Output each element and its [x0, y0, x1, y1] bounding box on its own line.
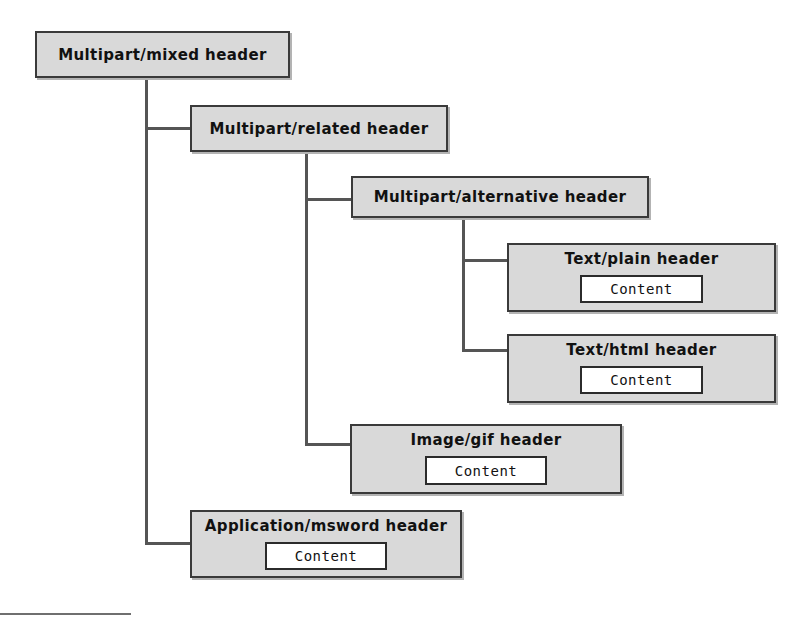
connector-trunk-mixed [145, 78, 148, 545]
node-multipart-mixed[interactable]: Multipart/mixed header [35, 31, 290, 78]
node-text-html[interactable]: Text/html header Content [507, 334, 776, 403]
connector-related-to-alternative [305, 198, 352, 201]
node-label: Text/plain header [565, 250, 719, 268]
node-application-msword[interactable]: Application/msword header Content [190, 510, 462, 578]
connector-trunk-related [305, 152, 308, 446]
node-multipart-alternative[interactable]: Multipart/alternative header [351, 176, 649, 218]
node-image-gif[interactable]: Image/gif header Content [350, 424, 622, 494]
node-label: Application/msword header [205, 517, 448, 535]
node-label: Image/gif header [410, 431, 561, 449]
content-label: Content [295, 548, 358, 564]
content-label: Content [610, 281, 673, 297]
content-label: Content [610, 372, 673, 388]
content-box: Content [425, 456, 547, 485]
node-multipart-related[interactable]: Multipart/related header [190, 105, 448, 152]
connector-mixed-to-related [145, 127, 191, 130]
diagram-canvas: Multipart/mixed header Multipart/related… [0, 0, 812, 628]
connector-mixed-to-msword [145, 542, 191, 545]
node-label: Multipart/mixed header [58, 46, 267, 64]
node-text-plain[interactable]: Text/plain header Content [507, 243, 776, 312]
node-label: Multipart/alternative header [374, 188, 627, 206]
content-box: Content [580, 366, 703, 394]
connector-trunk-alternative [462, 218, 465, 352]
content-label: Content [455, 463, 518, 479]
connector-related-to-imagegif [305, 443, 352, 446]
node-label: Text/html header [566, 341, 716, 359]
page-divider-rule [0, 613, 131, 615]
connector-alternative-to-texthtml [462, 349, 509, 352]
content-box: Content [580, 275, 703, 303]
content-box: Content [265, 542, 387, 570]
connector-alternative-to-textplain [462, 259, 509, 262]
node-label: Multipart/related header [210, 120, 429, 138]
